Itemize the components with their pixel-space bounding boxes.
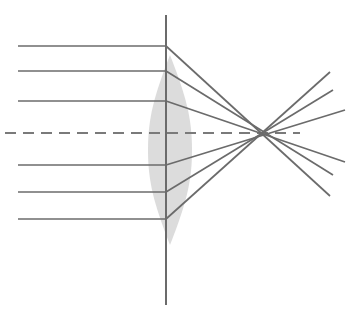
optics-ray-diagram-canvas xyxy=(0,0,357,320)
ray-diagram-figure xyxy=(0,0,357,320)
